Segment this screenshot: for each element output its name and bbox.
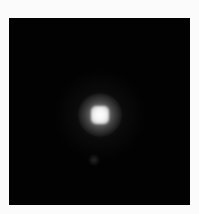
- figure: [0, 0, 199, 214]
- faint-feature: [88, 154, 100, 166]
- image-frame: [9, 18, 190, 205]
- point-source-core: [91, 106, 109, 124]
